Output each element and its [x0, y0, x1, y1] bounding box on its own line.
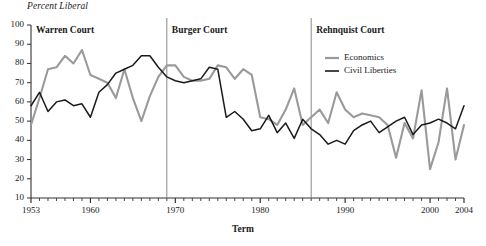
chart-container: Percent Liberal 100908070605040302010 19… [0, 0, 486, 246]
y-tick-40: 40 [0, 134, 24, 144]
x-tick-1953: 1953 [22, 205, 40, 215]
x-tick-1980: 1980 [251, 205, 269, 215]
era-label-burger-court: Burger Court [172, 25, 228, 35]
y-tick-90: 90 [0, 38, 24, 48]
y-tick-20: 20 [0, 173, 24, 183]
era-divider-layer [167, 18, 311, 198]
x-tick-2000: 2000 [421, 205, 439, 215]
series-line-civil-liberties [31, 56, 464, 144]
x-tick-1990: 1990 [336, 205, 354, 215]
y-tick-100: 100 [0, 19, 24, 29]
x-tick-2004: 2004 [455, 205, 473, 215]
legend-label-economics: Economics [344, 52, 384, 62]
data-series-layer [31, 50, 464, 169]
series-line-economics [31, 50, 464, 169]
legend-swatch-layer [325, 58, 339, 71]
era-label-rehnquist-court: Rehnquist Court [316, 25, 384, 35]
x-axis-title: Term [0, 224, 486, 234]
axis-layer [27, 25, 464, 203]
y-tick-30: 30 [0, 154, 24, 164]
era-label-warren-court: Warren Court [36, 25, 94, 35]
y-tick-10: 10 [0, 192, 24, 202]
legend-label-civil-liberties: Civil Liberties [344, 65, 396, 75]
y-tick-80: 80 [0, 57, 24, 67]
x-tick-1960: 1960 [81, 205, 99, 215]
y-tick-70: 70 [0, 77, 24, 87]
y-tick-60: 60 [0, 96, 24, 106]
x-tick-1970: 1970 [166, 205, 184, 215]
plot-canvas [0, 0, 486, 246]
y-tick-50: 50 [0, 115, 24, 125]
